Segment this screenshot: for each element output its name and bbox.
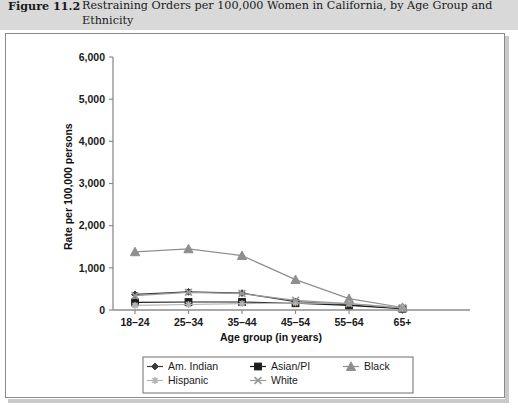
legend-label: Black <box>364 360 390 372</box>
x-axis-ticks: 18–2425–3435–4445–5455–6465+ <box>120 310 411 328</box>
legend-label: Hispanic <box>168 374 208 386</box>
y-tick-label: 0 <box>99 304 105 316</box>
line-chart: 01,0002,0003,0004,0005,0006,000 18–2425–… <box>0 0 518 418</box>
series-black <box>130 244 407 311</box>
triangle-data-point <box>291 275 300 284</box>
x-tick-label: 45–54 <box>281 316 310 328</box>
series-am-indian <box>132 288 406 311</box>
star-data-point <box>239 300 246 307</box>
y-tick-label: 2,000 <box>79 219 105 231</box>
square-data-point <box>255 363 262 370</box>
y-tick-label: 4,000 <box>79 135 105 147</box>
x-axis-title: Age group (in years) <box>220 331 322 343</box>
plot-area: 01,0002,0003,0004,0005,0006,000 18–2425–… <box>0 0 518 418</box>
data-series-group <box>130 244 407 312</box>
y-axis-title: Rate per 100,000 persons <box>62 123 74 250</box>
y-tick-label: 5,000 <box>79 93 105 105</box>
series-line <box>135 249 403 308</box>
chart-legend: Am. IndianAsian/PIBlackHispanicWhite <box>143 357 413 393</box>
chart-axes <box>113 57 470 310</box>
y-tick-label: 1,000 <box>79 262 105 274</box>
x-tick-label: 25–34 <box>174 316 203 328</box>
star-data-point <box>132 302 139 309</box>
x-tick-label: 55–64 <box>334 316 363 328</box>
legend-label: Am. Indian <box>168 360 218 372</box>
y-axis-ticks: 01,0002,0003,0004,0005,0006,000 <box>79 51 113 316</box>
y-tick-label: 3,000 <box>79 177 105 189</box>
figure-root: Figure 11.2Restraining Orders per 100,00… <box>0 0 518 418</box>
x-tick-label: 65+ <box>394 316 412 328</box>
x-tick-label: 18–24 <box>120 316 149 328</box>
x-tick-label: 35–44 <box>227 316 256 328</box>
y-tick-label: 6,000 <box>79 51 105 63</box>
legend-label: Asian/PI <box>271 360 310 372</box>
star-data-point <box>185 301 192 308</box>
legend-label: White <box>271 374 298 386</box>
star-data-point <box>152 377 159 384</box>
